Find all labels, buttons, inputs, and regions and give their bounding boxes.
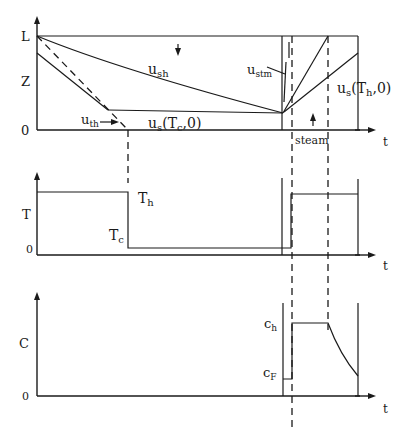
tick-label-0-bot: 0	[22, 390, 29, 403]
x-axis-label-t-bot: t	[383, 402, 388, 416]
tick-label-0-mid: 0	[26, 243, 33, 256]
label-Th: Th	[138, 190, 154, 208]
position-panel: L Z 0 t ush uth us(Tc,0) ustm us(Th,0) s…	[21, 20, 391, 429]
y-axis-label-T: T	[22, 207, 31, 222]
temperature-panel: T 0 t Th Tc	[22, 176, 388, 273]
label-u-th: uth	[81, 112, 99, 129]
y-axis-label-C: C	[19, 336, 29, 351]
label-steam: steam	[295, 134, 329, 147]
concentration-profile	[283, 323, 358, 379]
x-axis-label-t-mid: t	[383, 259, 388, 273]
label-u-sh: ush	[148, 61, 169, 79]
concentration-panel: C 0 t ch cF	[19, 296, 388, 416]
temperature-profile	[37, 192, 358, 248]
label-ch: ch	[264, 316, 277, 333]
cold-front-line	[37, 53, 108, 110]
label-u-stm: ustm	[247, 62, 273, 79]
u-s-tc-plateau	[108, 110, 283, 113]
label-u-s-th: us(Th,0)	[337, 80, 391, 98]
tick-label-0: 0	[21, 123, 29, 138]
x-axis-label-t: t	[383, 135, 388, 149]
steam-front-line	[283, 36, 328, 113]
label-cF: cF	[263, 365, 277, 382]
label-Tc: Tc	[109, 227, 124, 245]
label-u-s-tc: us(Tc,0)	[148, 115, 201, 133]
u-stm-line	[284, 62, 286, 102]
y-axis-label-Z: Z	[21, 74, 30, 89]
tick-label-L: L	[21, 29, 30, 44]
thermal-swing-diagram: L Z 0 t ush uth us(Tc,0) ustm us(Th,0) s…	[0, 0, 403, 429]
u-s-th-line	[284, 53, 358, 112]
